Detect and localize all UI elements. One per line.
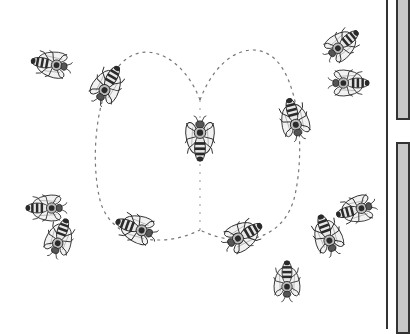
bee-icon [28, 46, 74, 83]
bee-icon [183, 116, 217, 162]
bee-icon [332, 190, 380, 230]
bee-drawing [0, 0, 386, 329]
bee-icon [83, 58, 132, 112]
bee-icon [316, 20, 367, 70]
bee-icon [216, 211, 270, 260]
side-panel-bottom [396, 142, 410, 334]
bee-icon [38, 214, 81, 263]
waggle-dance-illustration: Honeybee waggle dance illustration [0, 0, 386, 329]
bee-icon [273, 94, 315, 144]
bee-icon [26, 193, 67, 223]
side-panel-top [396, 0, 410, 120]
bee-icon [272, 261, 302, 302]
frame-divider [386, 0, 388, 329]
bee-icon [328, 68, 369, 98]
bee-icon [110, 206, 162, 251]
